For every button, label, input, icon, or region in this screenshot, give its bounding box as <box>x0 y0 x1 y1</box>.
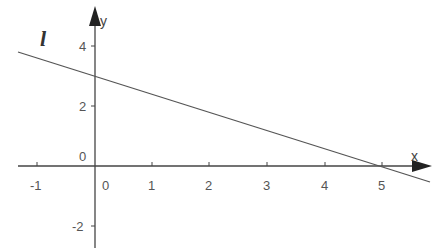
x-tick-label: 3 <box>263 178 270 193</box>
x-tick-label: 0 <box>102 178 109 193</box>
x-tick-label: 2 <box>205 178 212 193</box>
x-tick-label: 4 <box>321 178 328 193</box>
x-axis-label: x <box>411 148 418 164</box>
y-tick-label: -2 <box>72 219 84 234</box>
x-tick-label: 1 <box>148 178 155 193</box>
y-tick-label: 4 <box>79 39 86 54</box>
y-axis-label: y <box>100 13 107 29</box>
coordinate-plane: -1 0 1 2 3 4 5 4 2 0 -2 x y l <box>0 0 435 252</box>
y-tick-label: 0 <box>79 149 86 164</box>
x-tick-label: 5 <box>378 178 385 193</box>
y-tick-label: 2 <box>79 99 86 114</box>
x-tick-label: -1 <box>30 178 42 193</box>
line-l-label: l <box>40 26 47 51</box>
